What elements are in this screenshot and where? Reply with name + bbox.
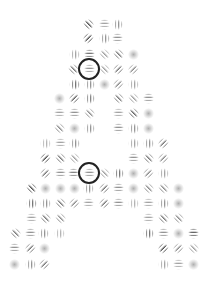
gabor-patch bbox=[158, 138, 169, 149]
stripe-texture bbox=[143, 138, 154, 149]
gabor-patch bbox=[143, 213, 154, 224]
stripe-texture bbox=[84, 93, 95, 104]
gabor-patch bbox=[40, 198, 51, 209]
gabor-patch bbox=[54, 123, 65, 134]
stripe-texture bbox=[113, 79, 124, 90]
gabor-patch bbox=[99, 198, 110, 209]
stripe-texture bbox=[113, 198, 124, 209]
gabor-patch bbox=[158, 259, 169, 270]
stripe-texture bbox=[128, 138, 139, 149]
gabor-patch bbox=[143, 168, 154, 179]
gabor-stimulus-canvas bbox=[0, 0, 209, 290]
gabor-patch bbox=[69, 198, 80, 209]
gabor-patch bbox=[69, 79, 80, 90]
stripe-texture bbox=[99, 33, 110, 44]
target-circle bbox=[78, 162, 100, 184]
stripe-texture bbox=[143, 213, 154, 224]
stripe-texture bbox=[55, 168, 66, 179]
gabor-patch bbox=[84, 123, 95, 134]
gabor-patch bbox=[69, 183, 80, 194]
gabor-patch bbox=[38, 228, 49, 239]
gabor-patch bbox=[158, 228, 169, 239]
gabor-patch bbox=[128, 64, 139, 75]
gabor-patch bbox=[113, 79, 124, 90]
gabor-patch bbox=[158, 153, 169, 164]
gabor-patch bbox=[113, 168, 124, 179]
gabor-patch bbox=[83, 33, 94, 44]
gabor-patch bbox=[173, 213, 184, 224]
gabor-patch bbox=[128, 198, 139, 209]
gabor-patch bbox=[69, 93, 80, 104]
stripe-texture bbox=[158, 228, 169, 239]
stripe-texture bbox=[69, 198, 80, 209]
stripe-texture bbox=[143, 198, 154, 209]
stripe-texture bbox=[83, 183, 94, 194]
gabor-patch bbox=[113, 123, 124, 134]
gabor-patch bbox=[173, 198, 184, 209]
gabor-patch bbox=[143, 108, 154, 119]
stripe-texture bbox=[113, 123, 124, 134]
stripe-texture bbox=[112, 19, 123, 30]
stripe-texture bbox=[99, 49, 110, 60]
gabor-patch bbox=[55, 138, 66, 149]
gabor-patch bbox=[40, 153, 51, 164]
target-circle bbox=[78, 58, 100, 80]
gabor-patch bbox=[99, 49, 110, 60]
stripe-texture bbox=[38, 228, 49, 239]
stripe-texture bbox=[68, 64, 79, 75]
stripe-texture bbox=[26, 198, 37, 209]
stripe-texture bbox=[99, 183, 110, 194]
stripe-texture bbox=[99, 64, 110, 75]
gabor-patch bbox=[158, 183, 169, 194]
stripe-texture bbox=[39, 259, 50, 270]
stripe-texture bbox=[113, 49, 124, 60]
gabor-patch bbox=[26, 183, 37, 194]
stripe-texture bbox=[143, 168, 154, 179]
gabor-patch bbox=[84, 79, 95, 90]
gabor-patch bbox=[99, 168, 110, 179]
gabor-patch bbox=[173, 259, 184, 270]
gabor-patch bbox=[113, 183, 124, 194]
gabor-patch bbox=[128, 183, 139, 194]
gabor-patch bbox=[54, 108, 65, 119]
stripe-texture bbox=[188, 228, 199, 239]
gabor-patch bbox=[10, 228, 21, 239]
stripe-texture bbox=[55, 153, 66, 164]
stripe-texture bbox=[128, 198, 139, 209]
stripe-texture bbox=[69, 138, 80, 149]
stripe-texture bbox=[26, 213, 37, 224]
gabor-patch bbox=[40, 138, 51, 149]
gabor-patch bbox=[68, 64, 79, 75]
stripe-texture bbox=[54, 123, 65, 134]
gabor-patch bbox=[39, 243, 50, 254]
stripe-texture bbox=[69, 49, 80, 60]
stripe-texture bbox=[128, 153, 139, 164]
stripe-texture bbox=[84, 79, 95, 90]
stripe-texture bbox=[55, 213, 66, 224]
stripe-texture bbox=[113, 64, 124, 75]
stripe-texture bbox=[40, 198, 51, 209]
gabor-patch bbox=[99, 64, 110, 75]
stripe-texture bbox=[83, 33, 94, 44]
gabor-patch bbox=[113, 64, 124, 75]
gabor-patch bbox=[9, 243, 20, 254]
stripe-texture bbox=[69, 153, 80, 164]
gabor-patch bbox=[84, 108, 95, 119]
gabor-patch bbox=[143, 153, 154, 164]
stripe-texture bbox=[158, 153, 169, 164]
gabor-patch bbox=[128, 108, 139, 119]
stripe-texture bbox=[188, 243, 199, 254]
gabor-patch bbox=[55, 153, 66, 164]
gabor-patch bbox=[25, 228, 36, 239]
gabor-patch bbox=[113, 93, 124, 104]
stripe-texture bbox=[25, 259, 36, 270]
stripe-texture bbox=[128, 64, 139, 75]
stripe-texture bbox=[26, 183, 37, 194]
gabor-patch bbox=[173, 243, 184, 254]
stripe-texture bbox=[113, 108, 124, 119]
stripe-texture bbox=[113, 183, 124, 194]
stripe-texture bbox=[143, 228, 154, 239]
stripe-texture bbox=[55, 138, 66, 149]
stripe-texture bbox=[40, 138, 51, 149]
stripe-texture bbox=[83, 19, 94, 30]
